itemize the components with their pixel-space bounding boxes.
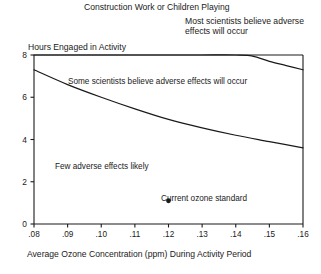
upper-threshold-curve	[34, 55, 303, 70]
lower-threshold-curve	[34, 70, 303, 148]
ozone-exposure-chart: Construction Work or Children Playing Mo…	[0, 0, 321, 274]
plot-area	[0, 0, 321, 274]
current-ozone-standard-marker	[166, 198, 171, 203]
